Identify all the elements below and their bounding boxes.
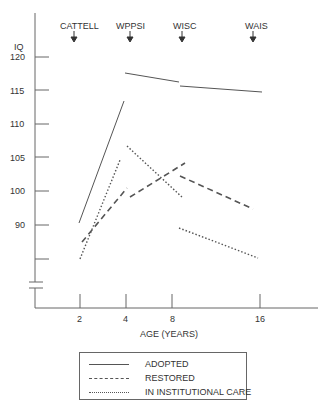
series-institutional-care bbox=[80, 146, 258, 259]
x-tick-label: 2 bbox=[77, 314, 82, 324]
x-axis-title: AGE (YEARS) bbox=[140, 329, 198, 339]
arrow-down-icon bbox=[179, 31, 185, 42]
y-tick-label: 105 bbox=[10, 153, 25, 163]
y-tick-label: 110 bbox=[10, 119, 24, 129]
solid-line-icon bbox=[89, 364, 129, 365]
x-tick-label: 8 bbox=[170, 314, 175, 324]
series-adopted bbox=[79, 73, 262, 223]
marker-label-cattell: CATTELL bbox=[60, 21, 99, 31]
y-axis: IQ 120 115 110 105 100 90 bbox=[10, 13, 49, 308]
arrow-down-icon bbox=[250, 31, 256, 42]
dotted-line-icon bbox=[89, 392, 129, 393]
x-tick-label: 4 bbox=[123, 314, 128, 324]
y-tick-label: 90 bbox=[15, 220, 25, 230]
legend: ADOPTED RESTORED IN INSTITUTIONAL CARE bbox=[79, 352, 247, 400]
y-tick-label: 120 bbox=[10, 52, 25, 62]
x-tick-label: 16 bbox=[255, 314, 265, 324]
y-axis-title: IQ bbox=[14, 42, 24, 52]
legend-item-institutional-care: IN INSTITUTIONAL CARE bbox=[80, 386, 246, 400]
legend-item-restored: RESTORED bbox=[80, 372, 246, 386]
marker-label-wais: WAIS bbox=[245, 21, 268, 31]
y-tick-label: 100 bbox=[10, 186, 25, 196]
marker-label-wisc: WISC bbox=[173, 21, 197, 31]
chart-canvas: IQ 120 115 110 105 100 90 2 4 8 16 AGE (… bbox=[0, 0, 330, 412]
series-restored bbox=[82, 163, 253, 242]
dashed-line-icon bbox=[89, 378, 129, 379]
x-axis: 2 4 8 16 AGE (YEARS) bbox=[35, 294, 318, 339]
marker-label-wppsi: WPPSI bbox=[116, 21, 145, 31]
test-markers: CATTELL WPPSI WISC WAIS bbox=[60, 21, 268, 42]
legend-item-adopted: ADOPTED bbox=[80, 358, 246, 372]
arrow-down-icon bbox=[71, 31, 77, 42]
y-tick-label: 115 bbox=[10, 86, 24, 96]
arrow-down-icon bbox=[127, 31, 133, 42]
